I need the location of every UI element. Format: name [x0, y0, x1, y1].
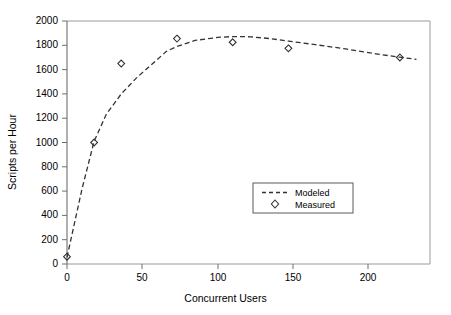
x-tick-label-100: 100 — [198, 272, 238, 283]
y-tick-label-2000: 2000 — [24, 15, 58, 26]
series-measured-markers — [64, 35, 404, 260]
x-tick-label-50: 50 — [122, 272, 162, 283]
y-tick-label-0: 0 — [24, 258, 58, 269]
y-tick-label-600: 600 — [24, 185, 58, 196]
x-axis-title: Concurrent Users — [0, 292, 451, 304]
legend-label-modeled: Modeled — [295, 188, 330, 198]
y-axis-title: Scripts per Hour — [6, 92, 18, 212]
y-tick-label-400: 400 — [24, 209, 58, 220]
y-tick-label-1400: 1400 — [24, 88, 58, 99]
x-tick-label-0: 0 — [47, 272, 87, 283]
x-tick-label-150: 150 — [273, 272, 313, 283]
y-tick-label-1800: 1800 — [24, 39, 58, 50]
x-tick-label-200: 200 — [348, 272, 388, 283]
y-tick-label-800: 800 — [24, 161, 58, 172]
data-point-marker — [174, 35, 181, 42]
data-point-marker — [118, 60, 125, 67]
y-tick-label-200: 200 — [24, 234, 58, 245]
data-point-marker — [285, 45, 292, 52]
y-tick-label-1000: 1000 — [24, 137, 58, 148]
x-axis-ticks — [67, 264, 368, 269]
plot-frame — [67, 21, 430, 264]
plot-area-svg — [0, 0, 451, 315]
series-modeled-line — [67, 37, 416, 258]
chart-container: 2000 1800 1600 1400 1200 1000 800 600 40… — [0, 0, 451, 315]
data-point-marker — [229, 39, 236, 46]
y-tick-label-1600: 1600 — [24, 64, 58, 75]
y-tick-label-1200: 1200 — [24, 112, 58, 123]
y-axis-ticks — [62, 21, 67, 264]
legend-label-measured: Measured — [295, 200, 335, 210]
